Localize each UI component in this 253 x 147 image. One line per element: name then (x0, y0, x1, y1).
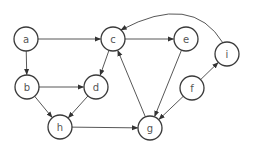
nodes: aceibdfhg (14, 27, 239, 140)
edge-b-to-h (35, 96, 52, 117)
node-label: i (226, 49, 229, 60)
edge-c-to-d (100, 50, 109, 75)
node-label: g (147, 123, 153, 134)
edge-e-to-g (155, 50, 182, 116)
edge-g-to-c (118, 51, 146, 117)
node-label: a (23, 34, 29, 45)
node-c: c (101, 27, 125, 51)
node-g: g (138, 116, 162, 140)
edge-d-to-h (68, 96, 88, 118)
node-b: b (15, 75, 39, 99)
node-i: i (215, 42, 239, 66)
node-e: e (174, 27, 198, 51)
node-label: b (24, 82, 30, 93)
node-label: d (93, 82, 99, 93)
node-f: f (180, 76, 204, 100)
node-label: f (190, 83, 194, 94)
node-h: h (48, 115, 72, 139)
node-a: a (14, 27, 38, 51)
node-label: h (57, 122, 63, 133)
edge-f-to-i (201, 63, 218, 80)
edge-f-to-g (159, 96, 183, 119)
edge-h-to-g (72, 127, 138, 128)
node-label: c (110, 34, 116, 45)
directed-graph: aceibdfhg (0, 0, 253, 147)
node-label: e (183, 34, 189, 45)
node-d: d (84, 75, 108, 99)
